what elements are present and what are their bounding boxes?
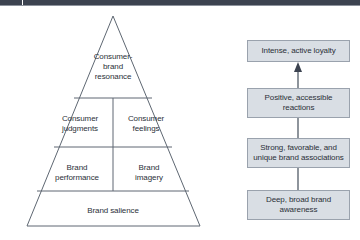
pyramid-tier-performance: Brand performance	[44, 163, 110, 183]
flow-box-associations[interactable]: Strong, favorable, and unique brand asso…	[247, 138, 350, 168]
diagram-page: Consumer- brand resonance Consumer judgm…	[0, 0, 360, 240]
arrow-up-icon	[294, 62, 302, 72]
pyramid-tier-feelings: Consumer feelings	[116, 114, 176, 134]
brand-building-steps: Intense, active loyalty Positive, access…	[240, 0, 360, 240]
flow-box-awareness[interactable]: Deep, broad brand awareness	[247, 190, 350, 220]
cbbe-pyramid: Consumer- brand resonance Consumer judgm…	[0, 8, 218, 236]
pyramid-tier-judgments: Consumer judgments	[50, 114, 110, 134]
header-tick-mark	[22, 0, 23, 5]
flow-box-loyalty[interactable]: Intense, active loyalty	[247, 40, 350, 62]
flow-box-reactions[interactable]: Positive, accessible reactions	[247, 88, 350, 118]
pyramid-tier-salience: Brand salience	[43, 206, 183, 216]
pyramid-tier-imagery: Brand imagery	[116, 163, 182, 183]
pyramid-tier-resonance: Consumer- brand resonance	[73, 52, 153, 82]
